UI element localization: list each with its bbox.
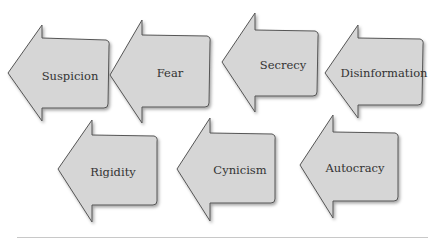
arrow-label: Cynicism [213,163,266,177]
arrow-label: Rigidity [90,165,136,179]
arrow-label: Autocracy [325,161,385,175]
arrow-label: Disinformation [341,66,429,80]
arrow-diagram: Suspicion Fear Secrecy Disinformation Ri… [0,0,436,240]
arrow-label: Fear [157,66,184,80]
arrow-label: Suspicion [42,69,99,83]
arrow-label: Secrecy [260,58,307,72]
